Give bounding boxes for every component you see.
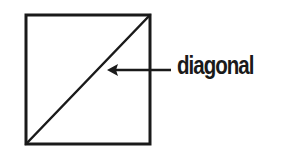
diagonal-line: [26, 15, 150, 144]
diagram-canvas: diagonal: [0, 0, 289, 156]
diagonal-label: diagonal: [177, 53, 253, 78]
